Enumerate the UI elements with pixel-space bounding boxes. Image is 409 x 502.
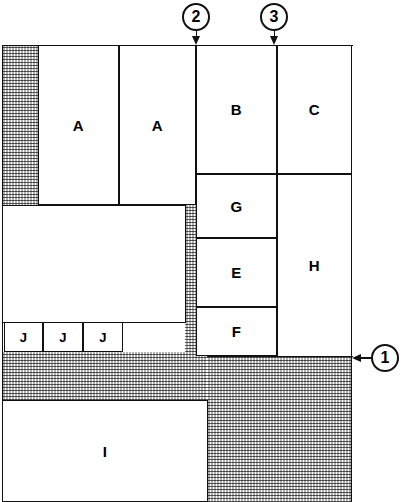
- callout-bubble-1[interactable]: 1: [371, 344, 399, 372]
- callout-arrow-3-icon: [270, 36, 278, 45]
- room-f[interactable]: F: [196, 307, 277, 356]
- hatched-area-bottom-right: [207, 352, 352, 502]
- outline-bottom-right: [351, 356, 352, 502]
- room-a-right[interactable]: A: [119, 45, 196, 205]
- room-i[interactable]: I: [2, 400, 208, 502]
- room-a-left[interactable]: A: [38, 45, 119, 205]
- room-h[interactable]: H: [277, 174, 352, 357]
- room-label: E: [231, 265, 242, 280]
- room-label: H: [309, 258, 320, 273]
- room-c[interactable]: C: [277, 45, 352, 174]
- callout-bubble-3[interactable]: 3: [260, 3, 288, 31]
- outline-right-step: [207, 356, 353, 357]
- room-label: F: [232, 324, 242, 339]
- room-label: G: [230, 199, 242, 214]
- room-b[interactable]: B: [196, 45, 277, 174]
- floor-plan-diagram: A A B C G E F H J J J I 2: [0, 0, 409, 502]
- callout-label: 3: [270, 8, 279, 26]
- room-label: J: [99, 331, 107, 344]
- room-label: A: [152, 118, 163, 133]
- room-g[interactable]: G: [196, 174, 277, 238]
- outline-top: [2, 45, 353, 46]
- callout-arrow-2-icon: [192, 36, 200, 45]
- room-middle-unlabeled[interactable]: [2, 205, 186, 323]
- room-e[interactable]: E: [196, 238, 277, 307]
- room-label: B: [231, 102, 242, 117]
- room-j-3[interactable]: J: [83, 322, 123, 352]
- outline-left: [2, 45, 3, 502]
- room-j-1[interactable]: J: [4, 322, 43, 352]
- callout-leader-1: [360, 357, 372, 359]
- hatched-area-mid-strip: [185, 205, 196, 355]
- hatched-area-left-strip: [2, 45, 38, 205]
- room-label: A: [73, 118, 84, 133]
- outline-right: [351, 45, 352, 358]
- room-label: J: [59, 331, 67, 344]
- room-label: I: [103, 444, 108, 459]
- room-j-2[interactable]: J: [43, 322, 83, 352]
- callout-bubble-2[interactable]: 2: [182, 3, 210, 31]
- callout-label: 1: [381, 349, 390, 367]
- callout-label: 2: [192, 8, 201, 26]
- room-label: J: [20, 331, 28, 344]
- room-label: C: [309, 102, 320, 117]
- callout-arrow-1-icon: [352, 354, 361, 362]
